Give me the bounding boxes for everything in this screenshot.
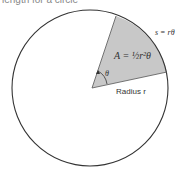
radius-label: Radius r [116,87,146,96]
angle-theta-label: θ [105,69,109,78]
area-formula: A = ½r²θ [113,50,151,61]
circle-sector-diagram: A = ½r²θ s = rθ θ Radius r [0,0,188,177]
arc-length-formula: s = rθ [155,28,175,37]
